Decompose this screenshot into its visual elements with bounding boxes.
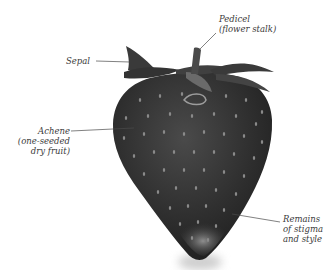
label-sepal: Sepal (66, 56, 90, 66)
remains-leader (232, 214, 280, 222)
sepal-leader (96, 61, 130, 62)
strawberry-diagram: Pedicel (flower stalk) Sepal Achene (one… (0, 0, 336, 270)
label-pedicel: Pedicel (flower stalk) (219, 14, 276, 34)
label-remains-of-stigma: Remains of stigma and style (283, 214, 323, 244)
label-achene: Achene (one-seeded dry fruit) (18, 126, 70, 156)
pedicel-leader (199, 33, 216, 50)
